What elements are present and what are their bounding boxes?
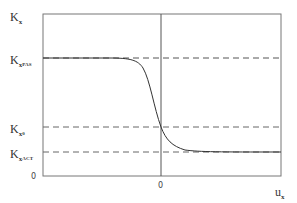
x-axis-label: ux	[275, 183, 285, 199]
y-axis-label: Kx	[10, 8, 22, 24]
k-act-label: KxACT	[10, 145, 33, 161]
k-pas-label: KxPAS	[10, 51, 32, 67]
y-zero-tick: 0	[31, 172, 36, 181]
chart-canvas	[0, 0, 297, 203]
x-zero-tick: 0	[158, 181, 163, 190]
k-0-label: Kx0	[10, 120, 25, 136]
kx-curve	[43, 58, 281, 152]
